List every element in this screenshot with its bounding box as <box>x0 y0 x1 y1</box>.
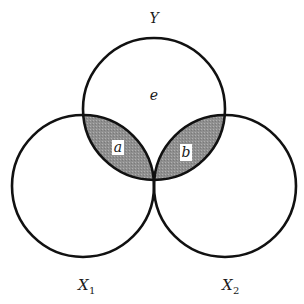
x1-subscript: 1 <box>89 285 95 296</box>
region-e-label: e <box>150 87 158 103</box>
x2-subscript: 2 <box>233 285 239 296</box>
region-b-label: b <box>182 144 191 160</box>
circle-y <box>83 38 225 180</box>
venn-diagram: Y e a b X 1 X 2 <box>0 0 304 304</box>
circle-x2 <box>154 115 296 257</box>
circle-y-label: Y <box>149 10 160 26</box>
circle-x1 <box>12 115 154 257</box>
circle-x1-label: X 1 <box>77 276 95 296</box>
region-a-label: a <box>114 139 122 155</box>
circle-x2-label: X 2 <box>221 276 239 296</box>
